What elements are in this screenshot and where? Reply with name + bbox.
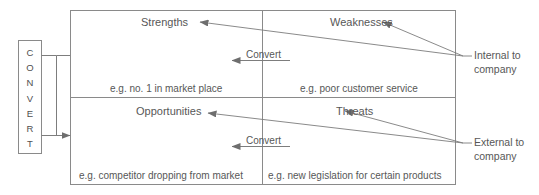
swot-diagram-canvas: [0, 0, 539, 195]
side-label-external-line1: External to: [474, 136, 539, 150]
quadrant-label-weaknesses: Weaknesses: [330, 16, 393, 29]
side-label-internal-line1: Internal to: [474, 49, 539, 63]
quadrant-example-opportunities: e.g. competitor dropping from market: [79, 169, 243, 182]
convert-letter-r: R: [21, 121, 39, 136]
quadrant-label-strengths: Strengths: [141, 16, 188, 29]
side-label-internal-line2: company: [474, 63, 539, 77]
quadrant-example-weaknesses: e.g. poor customer service: [300, 82, 418, 95]
quadrant-label-threats: Threats: [336, 105, 373, 118]
convert-connector-top: [57, 56, 71, 136]
quadrant-example-threats: e.g. new legislation for certain product…: [268, 169, 441, 182]
side-label-external-line2: company: [474, 150, 539, 164]
quadrant-label-opportunities: Opportunities: [136, 105, 201, 118]
convert-arrow-label-bottom: Convert: [246, 134, 281, 147]
convert-letter-o: O: [21, 60, 39, 75]
convert-arrow-label-top: Convert: [246, 48, 281, 61]
side-label-external: External to company: [474, 136, 539, 163]
convert-letter-e: E: [21, 106, 39, 121]
side-label-internal: Internal to company: [474, 49, 539, 76]
convert-letter-t: T: [21, 136, 39, 151]
convert-letter-v: V: [21, 91, 39, 106]
convert-letter-c: C: [21, 45, 39, 60]
convert-vertical-label: C O N V E R T: [21, 45, 39, 151]
convert-letter-n: N: [21, 75, 39, 90]
quadrant-example-strengths: e.g. no. 1 in market place: [110, 82, 222, 95]
